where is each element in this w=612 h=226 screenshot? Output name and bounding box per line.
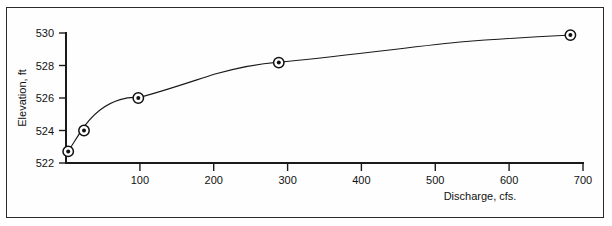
data-point [274,57,284,67]
x-tick-label-700: 700 [574,174,592,186]
figure-container: 530 528 526 524 522 100 200 300 400 500 … [0,0,612,226]
y-tick-marks [59,33,66,163]
x-tick-label-300: 300 [278,174,296,186]
data-point [565,30,575,40]
x-tick-label-600: 600 [500,174,518,186]
x-tick-labels: 100 200 300 400 500 600 700 [131,174,592,186]
x-tick-marks [140,163,583,171]
y-tick-label-526: 526 [36,92,54,104]
x-tick-label-100: 100 [131,174,149,186]
y-axis-title: Elevation, ft [16,69,28,126]
y-tick-labels: 530 528 526 524 522 [36,27,54,169]
x-tick-label-200: 200 [205,174,223,186]
data-point-markers [63,30,576,157]
chart-plot: 530 528 526 524 522 100 200 300 400 500 … [0,0,612,226]
y-tick-label-522: 522 [36,157,54,169]
y-tick-label-528: 528 [36,60,54,72]
x-tick-label-500: 500 [426,174,444,186]
y-tick-label-524: 524 [36,125,54,137]
x-axis-title: Discharge, cfs. [444,190,517,202]
data-point [79,125,89,135]
y-tick-label-530: 530 [36,27,54,39]
data-point [63,146,73,156]
data-curve [68,35,570,151]
x-tick-label-400: 400 [352,174,370,186]
data-point [133,93,143,103]
